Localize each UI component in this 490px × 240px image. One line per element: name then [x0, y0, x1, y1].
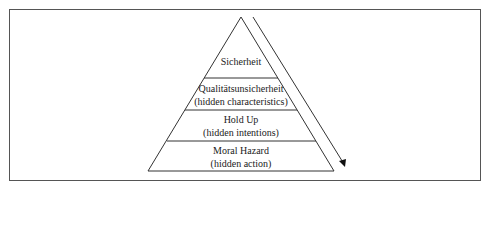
- level-qualitaetsunsicherheit: Qualitätsunsicherheit (hidden characteri…: [151, 82, 331, 108]
- level-subtitle: (hidden characteristics): [151, 95, 331, 108]
- level-hold-up: Hold Up (hidden intentions): [151, 113, 331, 139]
- level-title: Moral Hazard: [151, 144, 331, 157]
- level-moral-hazard: Moral Hazard (hidden action): [151, 144, 331, 170]
- level-subtitle: (hidden intentions): [151, 126, 331, 139]
- level-subtitle: (hidden action): [151, 157, 331, 170]
- arrow-head-icon: [339, 159, 346, 167]
- level-title: Hold Up: [151, 113, 331, 126]
- level-sicherheit: Sicherheit: [151, 55, 331, 68]
- level-title: Qualitätsunsicherheit: [151, 82, 331, 95]
- level-title: Sicherheit: [151, 55, 331, 68]
